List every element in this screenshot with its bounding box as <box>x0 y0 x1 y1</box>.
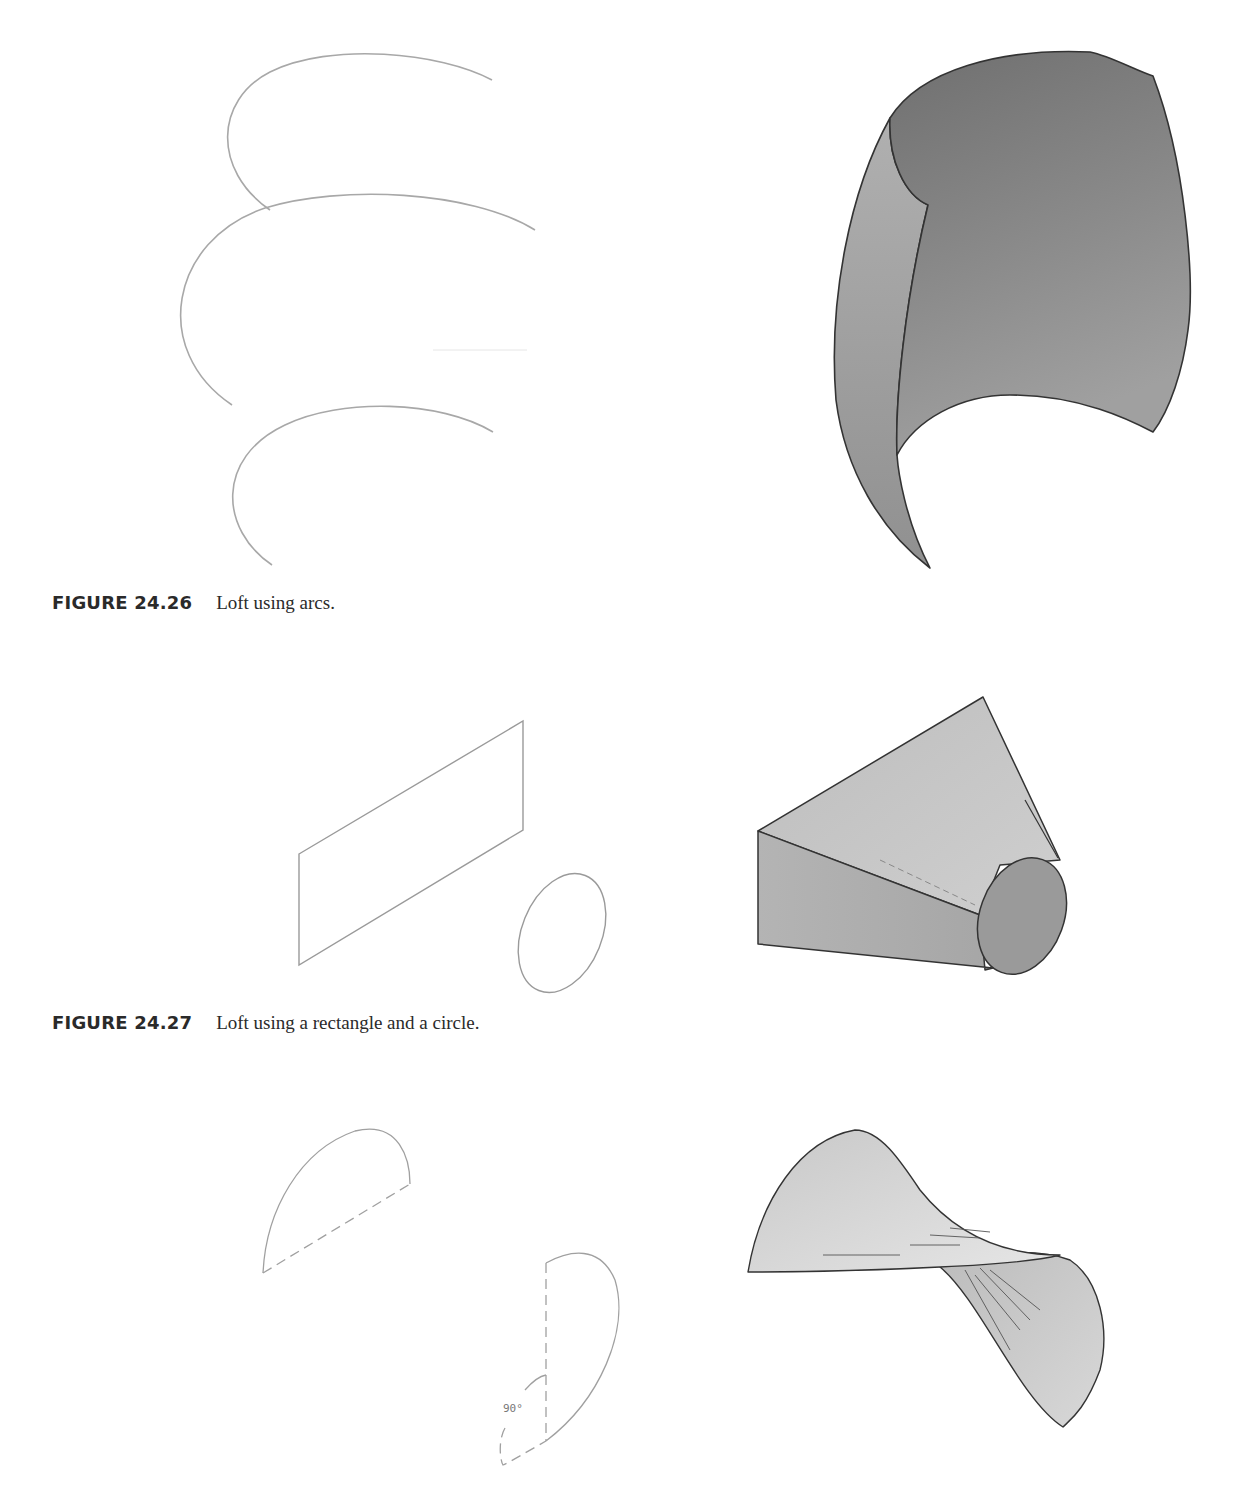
figure-artwork: 90° <box>0 0 1242 1487</box>
arc-top <box>228 54 492 210</box>
upper-wing <box>748 1130 1060 1272</box>
profile-1-arc <box>263 1129 410 1273</box>
figure-number: FIGURE 24.27 <box>52 1012 192 1033</box>
figure-24-26-caption: FIGURE 24.26Loft using arcs. <box>52 592 335 614</box>
figure-24-27-caption: FIGURE 24.27Loft using a rectangle and a… <box>52 1012 479 1034</box>
half-ellipse-profiles <box>263 1129 619 1465</box>
angle-label: 90° <box>503 1402 523 1415</box>
surface-main <box>890 52 1190 455</box>
arc-middle <box>181 194 535 405</box>
rotated-ghost-arc <box>500 1428 546 1465</box>
lower-wing <box>940 1252 1104 1427</box>
lofted-rectangle-circle-solid <box>758 697 1082 987</box>
angle-arc <box>525 1375 546 1390</box>
figure-caption-text: Loft using arcs. <box>216 592 335 613</box>
rectangle-and-circle-profiles <box>299 721 622 1005</box>
circle-profile <box>502 861 623 1006</box>
profile-2-arc <box>546 1253 619 1441</box>
rectangle-profile <box>299 721 523 965</box>
lofted-twisted-surface <box>748 1130 1104 1427</box>
figure-number: FIGURE 24.26 <box>52 592 192 613</box>
lofted-arc-surface <box>834 52 1190 568</box>
profile-1-chord <box>263 1184 410 1273</box>
figure-caption-text: Loft using a rectangle and a circle. <box>216 1012 479 1033</box>
arc-profiles <box>181 54 535 565</box>
arc-bottom <box>233 406 493 565</box>
